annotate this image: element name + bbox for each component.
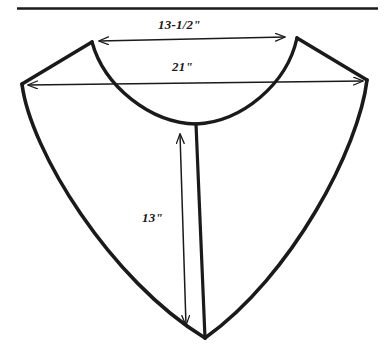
dimension-line-chest-width xyxy=(28,81,363,85)
dimension-label-chest-width: 21" xyxy=(172,60,193,73)
collar-pattern-figure: 13-1/2" 21" 13" xyxy=(0,0,385,362)
dimension-label-center-front-length: 13" xyxy=(142,211,163,224)
center-front-line xyxy=(196,124,205,338)
neckline-curve xyxy=(92,38,297,124)
dimension-line-center-front-length xyxy=(180,134,186,325)
dimension-line-shoulder-width xyxy=(99,37,285,41)
pattern-drawing xyxy=(0,0,385,362)
dimension-label-shoulder-width: 13-1/2" xyxy=(158,18,201,31)
